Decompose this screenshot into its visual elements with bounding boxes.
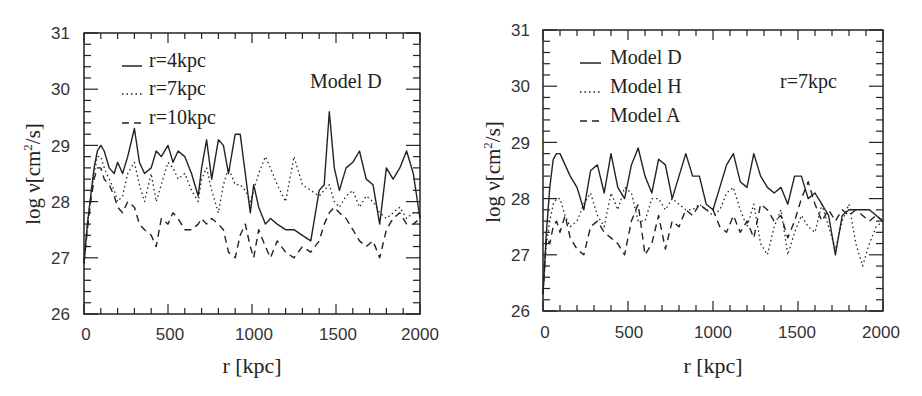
legend-label: r=7kpc — [149, 77, 206, 100]
svg-text:26: 26 — [511, 302, 530, 321]
right-legend: Model D Model H Model A — [580, 46, 682, 126]
right-x-tick-labels: 0 500 1000 1500 2000 — [540, 323, 900, 342]
svg-text:1500: 1500 — [319, 325, 357, 344]
svg-text:31: 31 — [51, 24, 70, 43]
right-y-tick-labels: 31 30 29 28 27 26 — [511, 21, 530, 321]
series-line-dotted — [543, 187, 883, 294]
legend-label: Model A — [610, 104, 681, 126]
svg-text:500: 500 — [156, 325, 184, 344]
series-line-solid — [543, 148, 883, 294]
svg-text:29: 29 — [51, 137, 70, 156]
svg-text:26: 26 — [51, 305, 70, 324]
svg-text:0: 0 — [81, 325, 90, 344]
legend-label: Model D — [610, 46, 682, 68]
svg-text:28: 28 — [51, 193, 70, 212]
svg-text:1000: 1000 — [694, 323, 732, 342]
svg-text:2000: 2000 — [862, 323, 900, 342]
legend-label: Model H — [610, 75, 682, 97]
left-x-axis-label: r [kpc] — [222, 353, 281, 378]
svg-text:31: 31 — [511, 21, 530, 40]
right-data-lines — [543, 148, 883, 294]
legend-label: r=4kpc — [149, 49, 206, 72]
svg-text:28: 28 — [511, 190, 530, 209]
svg-text:1500: 1500 — [778, 323, 816, 342]
svg-text:27: 27 — [511, 246, 530, 265]
left-y-axis-label: log ν[cm2/s] — [20, 123, 45, 225]
right-y-axis-label: log ν[cm2/s] — [480, 121, 505, 223]
svg-text:500: 500 — [615, 323, 643, 342]
svg-text:1000: 1000 — [235, 325, 273, 344]
left-annotation: Model D — [310, 70, 382, 92]
svg-text:30: 30 — [51, 80, 70, 99]
svg-text:30: 30 — [511, 77, 530, 96]
left-y-tick-labels: 31 30 29 28 27 26 — [51, 24, 70, 324]
svg-text:27: 27 — [51, 249, 70, 268]
svg-text:29: 29 — [511, 134, 530, 153]
left-x-tick-labels: 0 500 1000 1500 2000 — [81, 325, 439, 344]
figure: 31 30 29 28 27 26 0 500 1000 1500 2000 r… — [0, 0, 922, 396]
right-panel: 31 30 29 28 27 26 0 500 1000 1500 2000 r… — [480, 21, 900, 378]
svg-text:2000: 2000 — [401, 325, 439, 344]
right-x-axis-label: r [kpc] — [683, 353, 742, 378]
right-annotation: r=7kpc — [780, 70, 837, 93]
series-line-dotted — [84, 157, 420, 264]
series-line-solid — [84, 112, 420, 264]
svg-text:0: 0 — [540, 323, 549, 342]
left-data-lines — [84, 112, 420, 264]
legend-label: r=10kpc — [149, 106, 216, 129]
left-panel: 31 30 29 28 27 26 0 500 1000 1500 2000 r… — [20, 24, 439, 378]
left-legend: r=4kpc r=7kpc r=10kpc — [122, 49, 216, 129]
